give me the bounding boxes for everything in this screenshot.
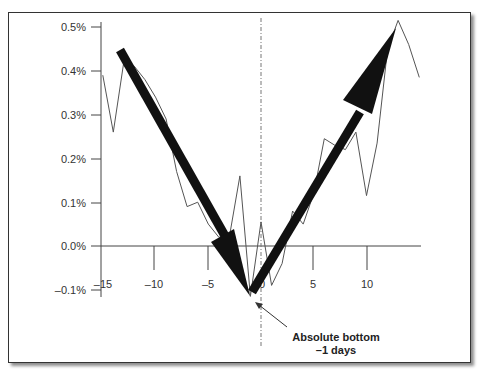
y-label-3: 0.2% (61, 153, 86, 165)
x-tick-labels: –15 –10 –5 0 5 10 (94, 278, 373, 290)
x-label-2: –5 (202, 278, 214, 290)
y-label-1: 0.4% (61, 65, 86, 77)
chart-svg: 0.5% 0.4% 0.3% 0.2% 0.1% 0.0% –0.1% –15 … (0, 0, 481, 373)
annotation-label-line1: Absolute bottom (292, 331, 380, 343)
y-label-4: 0.1% (61, 197, 86, 209)
y-label-0: 0.5% (61, 21, 86, 33)
y-label-2: 0.3% (61, 109, 86, 121)
annotation-label-line2: –1 days (316, 344, 356, 356)
down-trend-arrow (120, 50, 250, 296)
y-ticks (91, 27, 101, 290)
x-label-0: –15 (94, 278, 112, 290)
x-label-4: 5 (310, 278, 316, 290)
y-tick-labels: 0.5% 0.4% 0.3% 0.2% 0.1% 0.0% –0.1% (55, 21, 86, 296)
y-label-5: 0.0% (61, 240, 86, 252)
up-trend-arrow (252, 28, 396, 292)
y-label-6: –0.1% (55, 284, 86, 296)
x-label-5: 10 (361, 278, 373, 290)
annotation-pointer-arrow (255, 302, 287, 327)
x-label-1: –10 (145, 278, 163, 290)
